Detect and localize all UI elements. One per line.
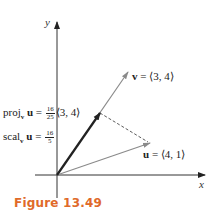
projection-vector xyxy=(57,113,100,175)
scal-subscript: v xyxy=(20,137,24,145)
y-axis-label: y xyxy=(45,16,50,28)
scal-den: 5 xyxy=(45,138,54,145)
proj-den: 25 xyxy=(46,114,55,121)
scal-eq: = xyxy=(35,130,41,142)
vector-u xyxy=(57,143,150,175)
proj-fraction: 1625 xyxy=(46,106,55,121)
proj-vec: u xyxy=(27,106,33,118)
proj-tail: ⟨3, 4⟩ xyxy=(56,106,81,118)
scal-label: scalv u = 165 xyxy=(3,130,55,145)
scal-prefix: scal xyxy=(3,130,20,142)
proj-subscript: v xyxy=(21,113,25,121)
perpendicular-dashed-line xyxy=(100,113,148,142)
figure-caption: Figure 13.49 xyxy=(14,196,102,210)
v-symbol: v xyxy=(132,70,138,82)
v-value: = ⟨3, 4⟩ xyxy=(140,70,173,82)
v-label: v = ⟨3, 4⟩ xyxy=(132,70,174,83)
u-symbol: u xyxy=(143,148,149,160)
x-axis-label: x xyxy=(199,178,204,190)
u-label: u = ⟨4, 1⟩ xyxy=(143,148,185,161)
u-value: = ⟨4, 1⟩ xyxy=(152,148,185,160)
proj-eq: = xyxy=(36,106,42,118)
proj-prefix: proj xyxy=(3,106,21,118)
scal-vec: u xyxy=(26,130,32,142)
proj-label: projv u = 1625⟨3, 4⟩ xyxy=(3,106,80,121)
scal-fraction: 165 xyxy=(45,130,54,145)
